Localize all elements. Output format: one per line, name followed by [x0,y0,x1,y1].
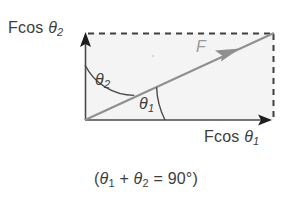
equation-close-paren: ) [192,170,198,187]
equation-value: 90 [168,170,186,187]
label-horizontal-component-subscript: 1 [253,135,259,147]
scan-speck-artifact [152,55,154,57]
label-angle-theta2-subscript: 2 [104,78,110,90]
label-angle-theta1: θ1 [139,95,154,114]
label-force-vector: F [196,38,206,56]
label-horizontal-component-prefix: Fcos [204,128,244,145]
label-angle-theta1-symbol: θ [139,95,148,112]
label-horizontal-component-symbol: θ [244,128,253,145]
angle-sum-equation: (θ1 + θ2 = 90°) [0,170,292,189]
label-vertical-component: Fcos θ2 [8,19,63,38]
label-vertical-component-prefix: Fcos [8,19,48,36]
equation-equals: = [149,170,168,187]
label-vertical-component-symbol: θ [48,19,57,36]
label-angle-theta2: θ2 [95,71,110,90]
label-horizontal-component: Fcos θ1 [204,128,259,147]
label-angle-theta1-subscript: 1 [148,102,154,114]
label-vertical-component-subscript: 2 [57,26,63,38]
label-angle-theta2-symbol: θ [95,71,104,88]
equation-plus: + [115,170,134,187]
